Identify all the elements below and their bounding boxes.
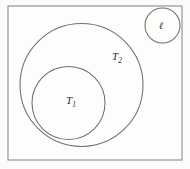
universe-rectangle bbox=[8, 6, 182, 160]
set-diagram-figure: T2 T1 ℓ bbox=[0, 0, 190, 169]
set-label-ell: ℓ bbox=[159, 20, 163, 31]
diagram-canvas: T2 T1 ℓ bbox=[0, 0, 190, 169]
set-label-t2-subscript: 2 bbox=[118, 56, 122, 65]
set-label-t1-subscript: 1 bbox=[72, 100, 76, 109]
